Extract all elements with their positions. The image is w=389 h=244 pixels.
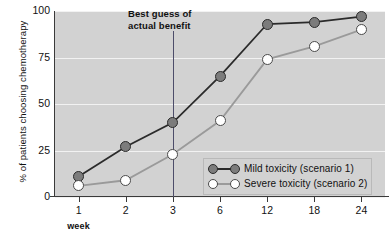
legend-entry-mild: Mild toxicity (scenario 1) bbox=[208, 161, 367, 176]
series-lines bbox=[0, 0, 389, 244]
chart-legend: Mild toxicity (scenario 1) Severe toxici… bbox=[203, 158, 372, 195]
chart-figure: % of patients choosing chemotherapy 0255… bbox=[0, 0, 389, 244]
series-line bbox=[79, 17, 362, 177]
legend-marker-mild-icon bbox=[208, 163, 240, 175]
legend-label-mild: Mild toxicity (scenario 1) bbox=[244, 163, 354, 174]
legend-entry-severe: Severe toxicity (scenario 2) bbox=[208, 176, 367, 191]
legend-marker-severe-icon bbox=[208, 178, 240, 190]
legend-label-severe: Severe toxicity (scenario 2) bbox=[244, 178, 367, 189]
